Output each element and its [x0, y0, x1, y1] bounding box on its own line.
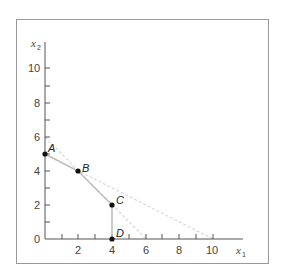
- label-a: A: [47, 142, 55, 154]
- x-axis-label-sub: 1: [242, 251, 246, 258]
- label-d: D: [116, 227, 124, 239]
- x-tick-10: 10: [206, 244, 218, 256]
- x-ticks: [62, 234, 213, 239]
- point-d: [109, 236, 114, 241]
- y-axis-label: x: [30, 37, 36, 49]
- point-a: [42, 151, 47, 156]
- x-tick-4: 4: [109, 244, 115, 256]
- y-tick-8: 8: [34, 97, 40, 109]
- y-tick-4: 4: [34, 165, 40, 177]
- label-b: B: [82, 162, 89, 174]
- y-tick-2: 2: [34, 199, 40, 211]
- x-tick-8: 8: [176, 244, 182, 256]
- label-c: C: [116, 194, 124, 206]
- x-tick-2: 2: [75, 244, 81, 256]
- y-tick-6: 6: [34, 131, 40, 143]
- y-tick-10: 10: [28, 62, 40, 74]
- y-axis-label-sub: 2: [37, 44, 41, 51]
- point-c: [109, 202, 114, 207]
- point-b: [75, 168, 80, 173]
- frontier-line: [45, 154, 112, 239]
- x-axis-label: x: [235, 244, 241, 256]
- x-tick-6: 6: [143, 244, 149, 256]
- chart-svg: 0 2 4 6 8 10 2 4 6 8 10 x 2 x 1 A B C D: [0, 0, 282, 275]
- y-tick-0: 0: [34, 233, 40, 245]
